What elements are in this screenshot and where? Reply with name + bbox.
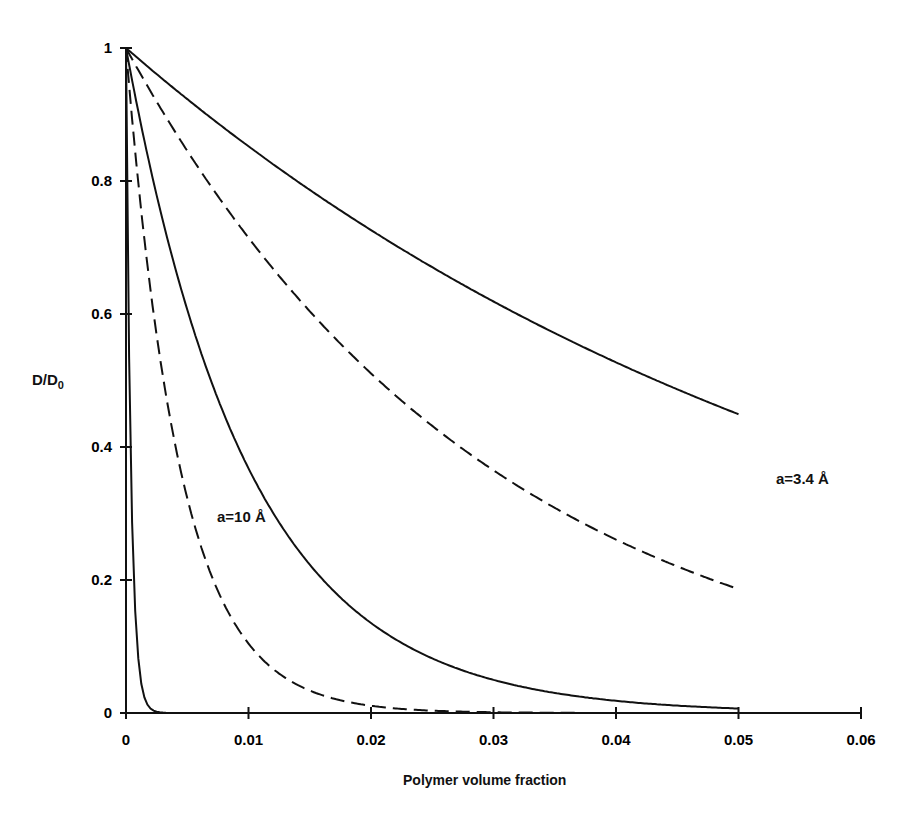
annotation-a10: a=10 Å xyxy=(217,508,266,525)
x-tick-label: 0.03 xyxy=(479,731,508,748)
x-tick-label: 0 xyxy=(122,731,130,748)
x-tick-label: 0.06 xyxy=(846,731,875,748)
x-tick-label: 0.04 xyxy=(601,731,631,748)
x-tick-label: 0.01 xyxy=(234,731,263,748)
x-tick-label: 0.02 xyxy=(356,731,385,748)
y-tick-label: 1 xyxy=(104,39,112,56)
curve-1 xyxy=(126,48,739,414)
curve-4 xyxy=(126,48,739,713)
curve-3 xyxy=(126,48,739,709)
x-tick-label: 0.05 xyxy=(724,731,753,748)
annotation-a34: a=3.4 Å xyxy=(776,470,829,487)
y-tick-label: 0.2 xyxy=(91,571,112,588)
y-tick-label: 0.4 xyxy=(91,438,113,455)
y-tick-label: 0.6 xyxy=(91,305,112,322)
x-axis-label: Polymer volume fraction xyxy=(403,772,566,788)
y-tick-label: 0.8 xyxy=(91,172,112,189)
curve-steep xyxy=(126,48,739,713)
y-axis-label: D/D0 xyxy=(32,371,64,391)
y-tick-label: 0 xyxy=(104,704,112,721)
chart-plot: 00.010.020.030.040.050.0600.20.40.60.81 xyxy=(0,0,918,819)
